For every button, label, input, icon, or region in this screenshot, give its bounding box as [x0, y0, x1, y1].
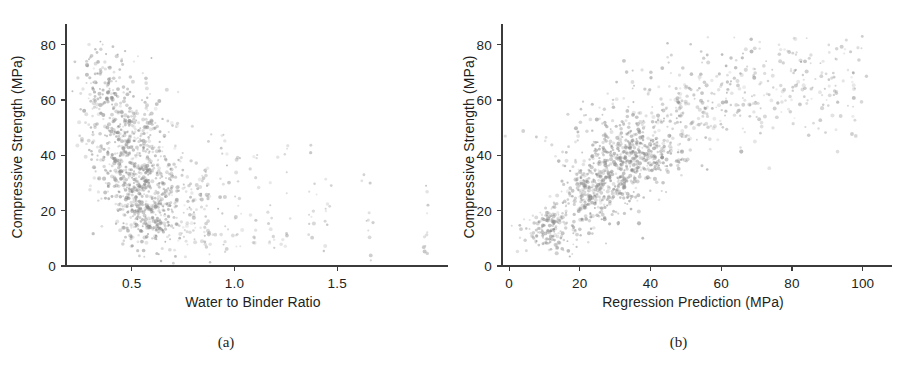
data-point — [651, 120, 655, 124]
data-point — [426, 212, 428, 214]
data-point — [724, 115, 726, 117]
data-point — [675, 109, 678, 112]
data-point — [276, 156, 279, 159]
data-point — [308, 223, 310, 225]
data-point — [91, 133, 94, 136]
data-point — [725, 128, 728, 131]
data-point — [165, 88, 169, 92]
data-point — [363, 173, 366, 176]
data-point — [583, 114, 585, 116]
data-point — [632, 69, 634, 71]
data-point — [134, 162, 136, 164]
data-point — [326, 224, 329, 227]
data-point — [718, 72, 721, 75]
data-point — [753, 140, 757, 144]
data-point — [119, 203, 123, 207]
data-point — [133, 121, 137, 125]
data-point — [100, 225, 103, 228]
data-point — [100, 198, 102, 200]
data-point — [199, 226, 202, 229]
data-point — [124, 214, 127, 217]
data-point — [635, 141, 638, 144]
data-point — [636, 122, 640, 126]
data-point — [591, 184, 595, 188]
data-point — [107, 191, 109, 193]
data-point — [603, 158, 605, 160]
data-point — [733, 37, 735, 39]
data-point — [604, 124, 607, 127]
data-point — [328, 205, 331, 208]
data-point — [98, 108, 101, 111]
data-point — [98, 132, 102, 136]
data-point — [706, 106, 709, 109]
data-point — [545, 237, 549, 241]
data-point — [769, 99, 773, 103]
data-point — [116, 87, 120, 91]
data-point — [111, 80, 113, 82]
data-point — [792, 72, 795, 75]
data-point — [750, 50, 754, 54]
data-point — [562, 183, 565, 186]
data-point — [642, 121, 645, 124]
data-point — [144, 77, 148, 81]
data-point — [119, 158, 122, 161]
data-point — [200, 239, 204, 243]
data-point — [752, 67, 755, 70]
data-point — [828, 85, 831, 88]
data-point — [140, 240, 144, 244]
data-point — [624, 202, 626, 204]
data-point — [646, 165, 648, 167]
data-point — [576, 134, 580, 138]
data-point — [134, 131, 137, 134]
data-point — [192, 229, 195, 232]
data-point — [602, 146, 606, 150]
data-point — [542, 237, 544, 239]
data-point — [124, 236, 127, 239]
data-point — [325, 210, 328, 213]
data-point — [607, 92, 609, 94]
data-point — [97, 199, 99, 201]
data-point — [155, 102, 159, 106]
data-point — [845, 38, 848, 41]
data-point — [154, 122, 156, 124]
data-point — [235, 158, 239, 162]
data-point — [742, 52, 744, 54]
data-point — [852, 106, 854, 108]
data-point — [593, 202, 597, 206]
data-point — [135, 177, 138, 180]
data-point — [569, 194, 572, 197]
data-point — [752, 74, 755, 77]
data-point — [191, 125, 194, 128]
data-point — [729, 82, 731, 84]
data-point — [152, 204, 156, 208]
data-point — [805, 70, 809, 74]
data-point — [249, 213, 253, 217]
data-point — [94, 72, 97, 75]
data-point — [141, 129, 144, 132]
data-point — [140, 132, 143, 135]
data-point — [701, 115, 704, 118]
data-point — [549, 241, 552, 244]
data-point — [578, 228, 582, 232]
data-point — [240, 213, 242, 215]
data-point — [669, 163, 673, 167]
data-point — [144, 106, 147, 109]
data-point — [567, 198, 570, 201]
data-point — [225, 152, 228, 155]
data-point — [137, 213, 140, 216]
data-point — [861, 35, 864, 38]
data-point — [619, 163, 621, 165]
data-point — [167, 208, 170, 211]
y-tick-label: 20 — [41, 204, 56, 219]
data-point — [165, 170, 169, 174]
data-point — [683, 83, 686, 86]
data-point — [93, 80, 97, 84]
data-point — [726, 92, 728, 94]
data-point — [159, 172, 163, 176]
x-tick-label: 20 — [572, 276, 587, 291]
data-point — [575, 178, 578, 181]
data-point — [178, 224, 181, 227]
data-point — [270, 217, 273, 220]
data-point — [798, 102, 801, 105]
data-point — [608, 177, 611, 180]
